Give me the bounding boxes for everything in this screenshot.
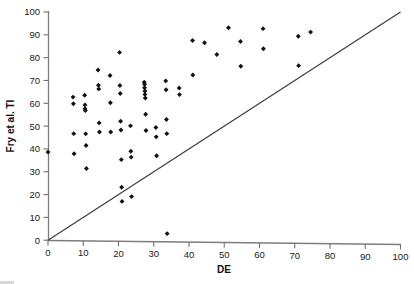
x-axis-tick-labels: 0102030405060708090100 (45, 247, 408, 262)
y-tick-label-20: 20 (29, 189, 40, 200)
data-point (129, 194, 134, 199)
identity-reference-line (48, 12, 401, 240)
data-point (108, 130, 113, 135)
data-point (84, 143, 89, 148)
data-point (71, 131, 76, 136)
data-point (163, 78, 168, 83)
data-point (129, 155, 134, 160)
x-tick-label-50: 50 (219, 249, 230, 260)
data-point (117, 83, 122, 88)
data-point (96, 68, 101, 73)
data-point-group (46, 25, 314, 236)
y-axis-ticks (44, 12, 49, 240)
data-point (143, 112, 148, 117)
data-point (118, 91, 123, 96)
x-tick-label-60: 60 (254, 249, 265, 260)
y-axis-tick-labels: 0102030405060708090100 (24, 6, 40, 245)
data-point (108, 73, 113, 78)
data-point (96, 86, 101, 91)
x-tick-label-20: 20 (113, 248, 124, 259)
x-tick-label-10: 10 (78, 247, 89, 258)
data-point (154, 153, 159, 158)
data-point (144, 128, 149, 133)
data-point (226, 25, 231, 30)
y-tick-label-100: 100 (24, 6, 40, 17)
x-tick-label-30: 30 (148, 248, 159, 259)
data-point (164, 131, 169, 136)
y-axis-title: Fry et al. TI (5, 99, 16, 152)
y-tick-label-70: 70 (29, 75, 40, 86)
data-point (165, 231, 170, 236)
data-point (308, 30, 313, 35)
data-point (164, 87, 169, 92)
data-point (214, 52, 219, 57)
y-tick-label-50: 50 (29, 121, 40, 132)
data-point (83, 131, 88, 136)
x-tick-label-40: 40 (184, 249, 195, 260)
data-point (261, 46, 266, 51)
data-point (82, 93, 87, 98)
data-point (72, 151, 77, 156)
data-point (177, 86, 182, 91)
data-point (128, 123, 133, 128)
data-point (97, 120, 102, 125)
y-tick-label-30: 30 (29, 166, 40, 177)
y-tick-label-10: 10 (29, 212, 40, 223)
data-point (117, 50, 122, 55)
data-point (118, 119, 123, 124)
y-tick-label-40: 40 (29, 143, 40, 154)
x-tick-label-0: 0 (45, 247, 50, 258)
data-point (97, 130, 102, 135)
data-point (190, 73, 195, 78)
scatter-plot-figure: 0102030405060708090100 01020304050607080… (0, 0, 414, 284)
data-point (296, 34, 301, 39)
data-point (153, 125, 158, 130)
data-point (164, 117, 169, 122)
data-point (143, 96, 148, 101)
y-tick-label-80: 80 (29, 52, 40, 63)
data-point (119, 128, 124, 133)
y-tick-label-60: 60 (29, 98, 40, 109)
data-point (202, 40, 207, 45)
data-point (71, 101, 76, 106)
data-point (154, 134, 159, 139)
plot-canvas: 0102030405060708090100 01020304050607080… (0, 0, 414, 284)
y-tick-label-90: 90 (29, 29, 40, 40)
y-tick-label-0: 0 (35, 235, 40, 246)
data-point (84, 166, 89, 171)
x-tick-label-70: 70 (289, 250, 300, 261)
x-tick-label-90: 90 (360, 251, 371, 262)
data-point (296, 63, 301, 68)
data-point (108, 100, 113, 105)
x-tick-label-80: 80 (325, 250, 336, 261)
data-point (120, 199, 125, 204)
data-point (119, 157, 124, 162)
data-point (238, 64, 243, 69)
data-point (238, 39, 243, 44)
data-point (71, 95, 76, 100)
x-tick-label-100: 100 (393, 251, 409, 262)
data-point (46, 150, 51, 155)
data-point (177, 92, 182, 97)
data-point (119, 185, 124, 190)
data-point (190, 38, 195, 43)
data-point (261, 26, 266, 31)
data-point (128, 149, 133, 154)
x-axis-title: DE (217, 264, 231, 275)
